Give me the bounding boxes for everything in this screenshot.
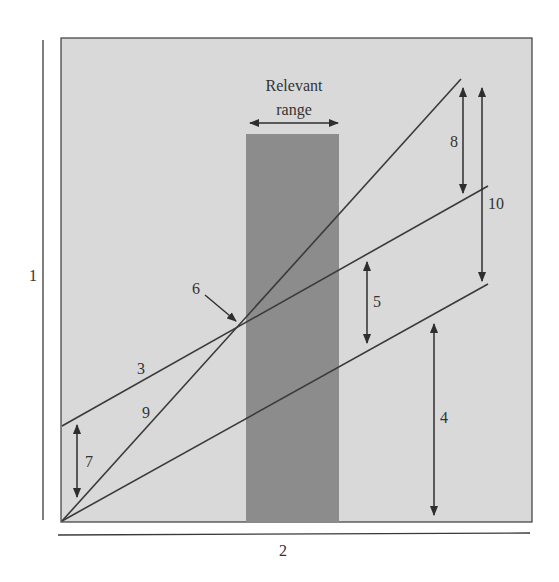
label-10: 10 bbox=[488, 195, 504, 212]
relevant-range-band bbox=[246, 134, 339, 522]
relevant-range-title-line1: Relevant bbox=[266, 77, 323, 94]
x-axis-label: 2 bbox=[279, 542, 287, 559]
label-6: 6 bbox=[192, 280, 200, 297]
label-3: 3 bbox=[137, 360, 145, 377]
label-4: 4 bbox=[440, 409, 448, 426]
cvp-diagram: Relevant range 1 2 3 9 6 7 8 10 5 4 bbox=[0, 0, 559, 582]
label-9: 9 bbox=[142, 404, 150, 421]
label-7: 7 bbox=[85, 453, 93, 470]
relevant-range-title-line2: range bbox=[276, 101, 312, 119]
label-5: 5 bbox=[373, 293, 381, 310]
y-axis-label: 1 bbox=[29, 267, 37, 284]
label-8: 8 bbox=[450, 133, 458, 150]
x-axis-line bbox=[58, 533, 530, 535]
